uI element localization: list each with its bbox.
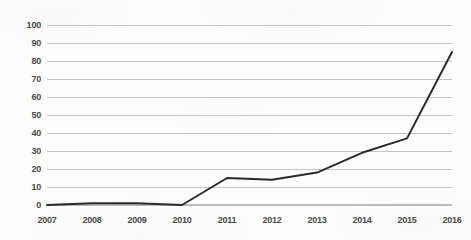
line-chart: 0102030405060708090100 20072008200920102…	[0, 0, 471, 240]
y-axis-tick-label: 20	[31, 164, 41, 174]
y-axis-tick-label: 0	[36, 200, 41, 210]
data-series	[47, 52, 452, 205]
x-axis-tick-label: 2009	[117, 215, 157, 225]
series-line	[47, 52, 452, 205]
x-axis-tick-label: 2007	[27, 215, 67, 225]
x-axis-tick-label: 2015	[387, 215, 427, 225]
y-axis-tick-label: 30	[31, 146, 41, 156]
y-axis-tick-label: 90	[31, 38, 41, 48]
x-axis-tick-label: 2012	[252, 215, 292, 225]
y-axis-tick-label: 100	[27, 20, 41, 30]
x-axis-tick-label: 2011	[207, 215, 247, 225]
y-axis-tick-label: 40	[31, 128, 41, 138]
x-axis-tick-label: 2016	[432, 215, 471, 225]
y-axis-tick-label: 60	[31, 92, 41, 102]
chart-plot-area	[0, 0, 471, 240]
y-axis-tick-label: 70	[31, 74, 41, 84]
x-axis-tick-label: 2010	[162, 215, 202, 225]
x-axis-tick-label: 2008	[72, 215, 112, 225]
y-axis-tick-label: 80	[31, 56, 41, 66]
y-axis-tick-label: 10	[31, 182, 41, 192]
x-axis-tick-label: 2013	[297, 215, 337, 225]
y-axis-tick-label: 50	[31, 110, 41, 120]
x-axis-tick-label: 2014	[342, 215, 382, 225]
